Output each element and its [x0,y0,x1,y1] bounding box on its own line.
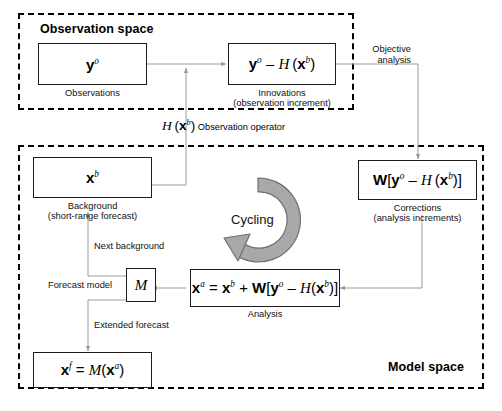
cycling-label: Cycling [231,212,274,227]
data-assimilation-diagram: Observation space Model space [0,0,502,411]
node-background-caption-2: (short-range forecast) [23,211,162,222]
node-forecast-formula: xf = M(xa) [61,362,125,378]
edge-label-extended-forecast: Extended forecast [94,320,169,331]
edge-label-observation-operator: H (xb) Observation operator [162,118,285,134]
edge-label-forecast-model: Forecast model [48,280,112,291]
node-corrections-caption-2: (analysis increments) [348,213,487,224]
node-innovations-formula: yo – H (xb) [249,56,316,72]
observation-space-title: Observation space [40,22,154,36]
node-observations[interactable]: yo [38,43,147,85]
node-innovations-caption-2: (observation increment) [218,98,346,109]
node-corrections-formula: W[yo – H (xb)] [373,172,462,188]
node-analysis-formula: xa = xb + W[yo – H(xb)] [192,280,338,296]
node-observations-caption: Observations [38,88,147,99]
edge-label-next-background: Next background [94,241,164,252]
edge-label-objective-analysis-line1: Objective [355,44,411,55]
node-forecast-model-formula: M [135,277,148,293]
node-analysis-caption: Analysis [190,309,340,320]
node-forecast[interactable]: xf = M(xa) [33,352,152,388]
observation-operator-math: H (xb) [162,118,195,133]
edge-label-objective-analysis-line2: analysis [355,55,411,66]
edge-label-objective-analysis: Objective analysis [355,44,411,66]
node-background[interactable]: xb [33,157,152,198]
node-background-formula: xb [86,170,99,185]
node-innovations[interactable]: yo – H (xb) [228,43,336,85]
model-space-title: Model space [388,360,464,374]
node-corrections[interactable]: W[yo – H (xb)] [358,160,477,200]
node-analysis[interactable]: xa = xb + W[yo – H(xb)] [190,269,340,307]
observation-operator-text: Observation operator [198,122,285,132]
node-observations-formula: yo [86,57,99,72]
node-forecast-model[interactable]: M [126,268,156,302]
